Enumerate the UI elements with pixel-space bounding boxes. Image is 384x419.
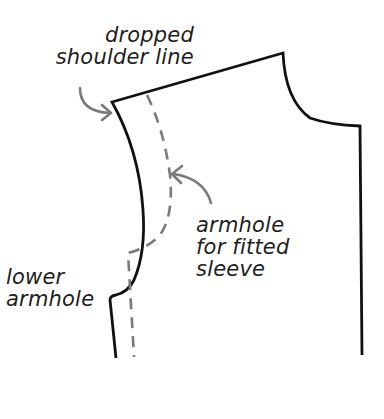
label-fitted-armhole-line2: for fitted xyxy=(196,236,290,258)
label-lower-armhole: lower armhole xyxy=(6,266,94,310)
label-lower-armhole-line1: lower xyxy=(6,266,94,288)
label-fitted-armhole: armhole for fitted sleeve xyxy=(196,214,290,280)
label-fitted-armhole-line3: sleeve xyxy=(196,258,290,280)
label-lower-armhole-line2: armhole xyxy=(6,288,94,310)
label-dropped-shoulder-line2: shoulder line xyxy=(56,46,194,68)
label-fitted-armhole-line1: armhole xyxy=(196,214,290,236)
label-dropped-shoulder: dropped shoulder line xyxy=(56,24,194,68)
arrow-dropped-shoulder-icon xyxy=(80,88,111,120)
fitted-armhole-line xyxy=(128,95,171,357)
arrow-fitted-armhole-icon xyxy=(172,166,211,203)
label-dropped-shoulder-line1: dropped xyxy=(56,24,194,46)
